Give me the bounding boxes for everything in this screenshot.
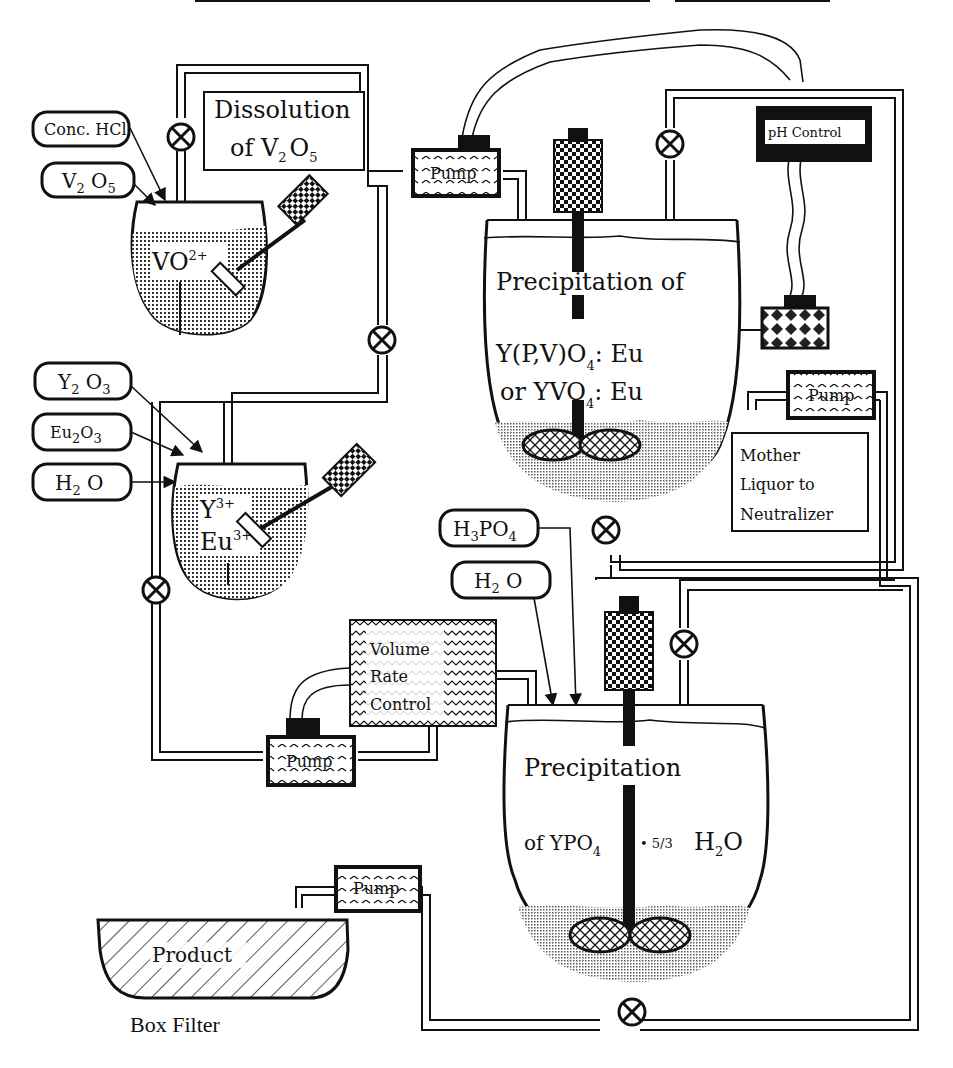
svg-text:Conc. HCl: Conc. HCl	[44, 120, 127, 139]
valve-icon[interactable]	[657, 131, 683, 157]
dissolution-vessel: VO2+	[132, 175, 328, 335]
svg-text:Precipitation: Precipitation	[524, 754, 681, 782]
svg-text:Control: Control	[370, 695, 431, 714]
process-flow-diagram: Dissolution of V2O5 VO2+ Conc. HCl V2 O5	[0, 0, 953, 1068]
svg-text:Pump: Pump	[286, 752, 332, 771]
dissolution-label-box: Dissolution of V2O5	[204, 92, 364, 170]
stirrer-motor-icon	[278, 175, 327, 224]
svg-text:Rate: Rate	[370, 667, 408, 686]
pump-2[interactable]: Pump	[788, 372, 874, 418]
svg-text:Box Filter: Box Filter	[130, 1012, 221, 1037]
input-h2o-1: H2 O	[33, 464, 175, 500]
svg-text:Product: Product	[152, 943, 232, 967]
dissolution-line1: Dissolution	[214, 96, 350, 124]
svg-text:Mother: Mother	[740, 446, 800, 465]
svg-text:Liquor to: Liquor to	[740, 475, 815, 494]
box-filter: Product Box Filter	[98, 920, 348, 1037]
stirrer-motor-icon	[554, 140, 602, 212]
svg-text:Volume: Volume	[369, 640, 430, 659]
stirrer-motor-icon	[605, 612, 653, 690]
valve-icon[interactable]	[671, 631, 697, 657]
valve-icon[interactable]	[143, 577, 169, 603]
svg-text:Neutralizer: Neutralizer	[740, 505, 834, 524]
valve-icon[interactable]	[593, 517, 619, 543]
valve-icon[interactable]	[168, 124, 194, 150]
svg-text:Pump: Pump	[808, 386, 854, 405]
dissolution-line2: of V2O5	[230, 134, 318, 165]
valve-icon[interactable]	[369, 327, 395, 353]
svg-text:pH Control: pH Control	[768, 125, 841, 140]
valve-icon[interactable]	[619, 999, 645, 1025]
volume-rate-control-box[interactable]: Volume Rate Control	[350, 620, 496, 726]
svg-text:Pump: Pump	[430, 164, 476, 183]
pump-1[interactable]: Pump	[413, 135, 499, 196]
precipitation-vessel-1: Precipitation of Y(P,V)O4: Eu or YVO4: E…	[484, 128, 740, 502]
svg-text:Pump: Pump	[353, 879, 399, 898]
precip1-line1: Precipitation of	[496, 268, 686, 296]
input-v2o5: V2 O5	[42, 163, 155, 205]
pump-3[interactable]: Pump	[268, 718, 354, 785]
mother-liquor-box: Mother Liquor to Neutralizer	[732, 433, 868, 531]
svg-text:• 5/3: • 5/3	[640, 836, 673, 851]
dissolution-vessel-2: Y3+ Eu3+	[173, 444, 376, 599]
svg-text:H3PO4: H3PO4	[453, 517, 517, 544]
pump-4[interactable]: Pump	[336, 867, 420, 911]
ph-control-box[interactable]: pH Control	[756, 106, 872, 162]
precip2-line2: of YPO4	[524, 831, 601, 859]
